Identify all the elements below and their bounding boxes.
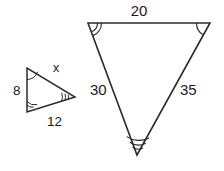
large-triangle-label-top: 20: [131, 2, 148, 19]
large-triangle-angle-top-right-marks: [196, 23, 202, 35]
small-triangle: 8 x 12: [13, 61, 75, 129]
geometry-figure: 8 x 12 20 30 35: [0, 0, 224, 171]
large-triangle: 20 30 35: [88, 2, 210, 155]
large-triangle-label-left: 30: [90, 81, 107, 98]
small-triangle-label-top: x: [53, 61, 60, 75]
large-triangle-label-right: 35: [180, 81, 197, 98]
large-triangle-angle-top-left-marks: [92, 23, 102, 36]
small-triangle-label-left: 8: [13, 83, 21, 98]
small-triangle-angle-bottom-left-marks: [27, 102, 37, 108]
similar-triangles-diagram: 8 x 12 20 30 35: [0, 0, 224, 171]
small-triangle-label-bottom: 12: [47, 114, 62, 129]
